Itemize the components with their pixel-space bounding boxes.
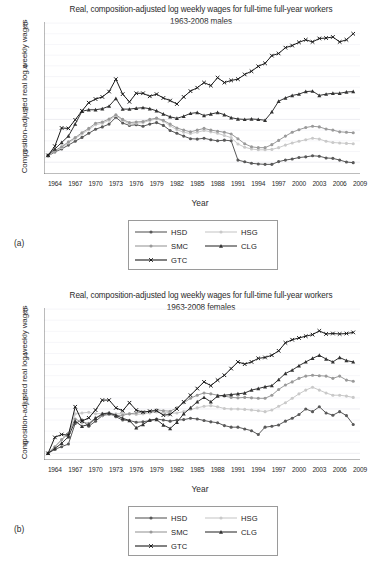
legend-item-gtc[interactable]: GTC: [134, 255, 204, 265]
circle-marker-icon: [204, 227, 238, 237]
y-tick-label: .4: [21, 352, 30, 374]
legend-item-clg[interactable]: CLG: [204, 241, 274, 251]
y-tick-label: .6: [21, 21, 30, 43]
series-gtc: [46, 329, 355, 455]
chart-b-svg: [44, 308, 360, 460]
legend-label: HSD: [171, 514, 187, 523]
legend-label: HSD: [171, 228, 187, 237]
legend-label: CLG: [241, 242, 257, 251]
x-marker-icon: [134, 541, 168, 551]
x-tick-label: 2009: [347, 180, 372, 187]
y-tick-label: .6: [21, 308, 30, 330]
chart-b-plot-area: [44, 308, 360, 460]
legend-label: HSG: [241, 228, 258, 237]
triangle-marker-icon: [204, 241, 238, 251]
legend-item-hsd[interactable]: HSD: [134, 513, 204, 523]
y-tick-label: .2: [21, 396, 30, 418]
chart-a-legend-items: HSDHSGSMCCLGGTC: [134, 225, 274, 267]
y-tick-label: .2: [21, 107, 30, 129]
circle-marker-icon: [134, 227, 168, 237]
legend-label: GTC: [171, 542, 187, 551]
chart-a-legend: HSDHSGSMCCLGGTC: [128, 220, 278, 270]
chart-a-x-axis-label: Year: [40, 198, 360, 208]
series-clg: [46, 89, 355, 156]
chart-b-x-axis-label: Year: [40, 484, 360, 494]
chart-a-title-line1: Real, composition-adjusted log weekly wa…: [70, 5, 333, 14]
y-tick-label: 0: [21, 441, 30, 463]
legend-item-hsd[interactable]: HSD: [134, 227, 204, 237]
y-tick-label: .4: [21, 64, 30, 86]
triangle-marker-icon: [204, 527, 238, 537]
series-clg: [46, 353, 355, 455]
legend-item-smc[interactable]: SMC: [134, 527, 204, 537]
panel-a: Real, composition-adjusted log weekly wa…: [0, 0, 372, 286]
panel-b-tag: (b): [14, 524, 24, 534]
legend-item-hsg[interactable]: HSG: [204, 513, 274, 523]
legend-label: SMC: [171, 242, 188, 251]
circle-marker-icon: [134, 527, 168, 537]
panel-a-tag: (a): [14, 238, 24, 248]
circle-marker-icon: [204, 513, 238, 523]
chart-a-plot-area: [44, 22, 360, 174]
y-tick-label: 0: [21, 150, 30, 172]
series-smc: [47, 113, 355, 157]
legend-label: SMC: [171, 528, 188, 537]
series-hsg: [47, 114, 355, 157]
legend-item-hsg[interactable]: HSG: [204, 227, 274, 237]
legend-item-gtc[interactable]: GTC: [134, 541, 204, 551]
chart-b-legend-items: HSDHSGSMCCLGGTC: [134, 511, 274, 553]
legend-label: GTC: [171, 256, 187, 265]
chart-a-svg: [44, 22, 360, 174]
panel-b: Real, composition-adjusted log weekly wa…: [0, 286, 372, 572]
legend-item-clg[interactable]: CLG: [204, 527, 274, 537]
x-marker-icon: [134, 255, 168, 265]
chart-b-legend: HSDHSGSMCCLGGTC: [128, 506, 278, 556]
circle-marker-icon: [134, 513, 168, 523]
circle-marker-icon: [134, 241, 168, 251]
legend-label: HSG: [241, 514, 258, 523]
legend-item-smc[interactable]: SMC: [134, 241, 204, 251]
legend-label: CLG: [241, 528, 257, 537]
chart-b-title-line1: Real, composition-adjusted log weekly wa…: [70, 291, 333, 300]
x-tick-label: 2009: [347, 466, 372, 473]
figure-container: Real, composition-adjusted log weekly wa…: [0, 0, 372, 572]
